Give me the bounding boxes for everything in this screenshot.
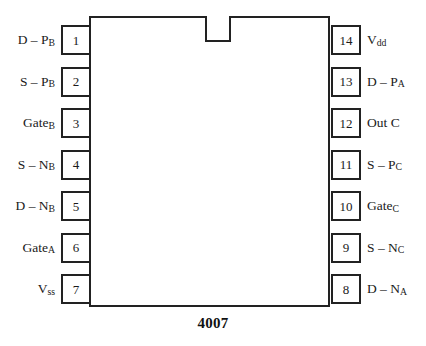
pin-3-label-text: Gate [23,116,48,130]
part-number-caption: 4007 [0,315,426,332]
pin-7-number: 7 [63,276,89,302]
pin-1-label: D – PB [18,25,55,55]
pin-6-label: GateA [22,233,55,263]
pin-12-label: Out C [367,108,400,138]
pin-5-label-subscript: B [49,204,55,214]
pin-6-box: 6 [61,233,91,263]
pin-10-label: GateC [367,191,399,221]
pin-9-label-text: S – N [367,241,398,255]
ic-pinout-diagram: 1D – PB2S – PB3GateB4S – NB5D – NB6GateA… [0,0,426,346]
pin-2-label: S – PB [20,67,55,97]
pin-12-label-text: Out C [367,116,400,130]
pin-3-label-subscript: B [49,121,55,131]
pin-13-label-text: D – P [367,75,398,89]
pin-4-label-subscript: B [49,162,55,172]
pin-7-label-subscript: ss [47,287,55,297]
pin-7-box: 7 [61,274,91,304]
pin-9-label: S – NC [367,233,404,263]
pin-10-box: 10 [331,191,361,221]
pin-5-label-text: D – N [16,199,49,213]
pin-2-box: 2 [61,67,91,97]
pin-8-label-text: D – N [367,282,400,296]
pin-8-label-subscript: A [400,287,407,297]
pin-5-box: 5 [61,191,91,221]
pin-8-label: D – NA [367,274,407,304]
pin-6-label-subscript: A [48,245,55,255]
pin-6-label-text: Gate [22,241,47,255]
pin-13-number: 13 [333,69,359,95]
pin-8-box: 8 [331,274,361,304]
pin-10-number: 10 [333,193,359,219]
pin-10-label-subscript: C [392,204,398,214]
pin-6-number: 6 [63,235,89,261]
pin-12-box: 12 [331,108,361,138]
pin-1-box: 1 [61,25,91,55]
pin-3-number: 3 [63,110,89,136]
pin-8-number: 8 [333,276,359,302]
pin-4-box: 4 [61,150,91,180]
pin-5-number: 5 [63,193,89,219]
pin-7-label-text: V [38,282,48,296]
pin-11-box: 11 [331,150,361,180]
ic-notch-icon [205,16,231,42]
pin-4-label-text: S – N [18,158,49,172]
pin-11-label-subscript: C [396,162,402,172]
pin-4-label: S – NB [18,150,55,180]
pin-1-label-text: D – P [18,33,49,47]
pin-1-label-subscript: B [49,38,55,48]
pin-10-label-text: Gate [367,199,392,213]
pin-11-label-text: S – P [367,158,396,172]
pin-12-number: 12 [333,110,359,136]
pin-13-label-subscript: A [398,79,405,89]
pin-14-number: 14 [333,27,359,53]
pin-11-label: S – PC [367,150,402,180]
pin-14-label: Vdd [367,25,386,55]
pin-3-label: GateB [23,108,55,138]
pin-13-box: 13 [331,67,361,97]
pin-2-number: 2 [63,69,89,95]
pin-9-number: 9 [333,235,359,261]
pin-9-label-subscript: C [398,245,404,255]
pin-14-label-text: V [367,33,377,47]
pin-5-label: D – NB [16,191,55,221]
pin-9-box: 9 [331,233,361,263]
pin-4-number: 4 [63,152,89,178]
pin-14-box: 14 [331,25,361,55]
ic-body-outline [89,16,330,307]
pin-13-label: D – PA [367,67,405,97]
pin-11-number: 11 [333,152,359,178]
pin-2-label-subscript: B [49,79,55,89]
pin-3-box: 3 [61,108,91,138]
pin-14-label-subscript: dd [377,38,387,48]
pin-2-label-text: S – P [20,75,49,89]
pin-7-label: Vss [38,274,55,304]
pin-1-number: 1 [63,27,89,53]
